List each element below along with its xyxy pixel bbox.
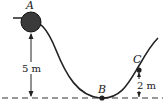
label-b: B bbox=[97, 83, 106, 96]
ball-a bbox=[21, 12, 41, 32]
height-a-label: 5 m bbox=[22, 63, 42, 74]
arrowhead-up-icon bbox=[29, 33, 34, 39]
arrowhead-up-icon bbox=[137, 72, 141, 77]
point-b bbox=[99, 95, 104, 100]
arrowhead-down-icon bbox=[137, 92, 141, 97]
label-c: C bbox=[133, 53, 142, 66]
arrowhead-down-icon bbox=[29, 91, 34, 97]
height-c-label: 2 m bbox=[137, 80, 157, 91]
track-diagram: A 5 m B C 2 m bbox=[0, 0, 165, 108]
point-c bbox=[136, 67, 141, 72]
label-a: A bbox=[25, 0, 34, 12]
